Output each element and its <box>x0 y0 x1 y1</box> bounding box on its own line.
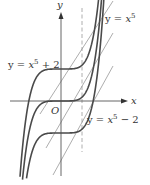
y-axis-arrow-icon <box>59 12 64 19</box>
origin-label: O <box>51 106 59 116</box>
curve-middle <box>23 0 102 180</box>
diagram-canvas <box>0 0 150 185</box>
x-axis-label: x <box>131 96 137 106</box>
curve-label-lower: y = x5 − 2 <box>87 115 139 125</box>
curve-label-upper: y = x5 + 2 <box>8 60 60 70</box>
y-axis-label: y <box>57 0 63 10</box>
curve-lower <box>27 0 105 178</box>
x-axis-arrow-icon <box>121 99 128 104</box>
curve-label-middle: y = x5 <box>105 14 136 24</box>
